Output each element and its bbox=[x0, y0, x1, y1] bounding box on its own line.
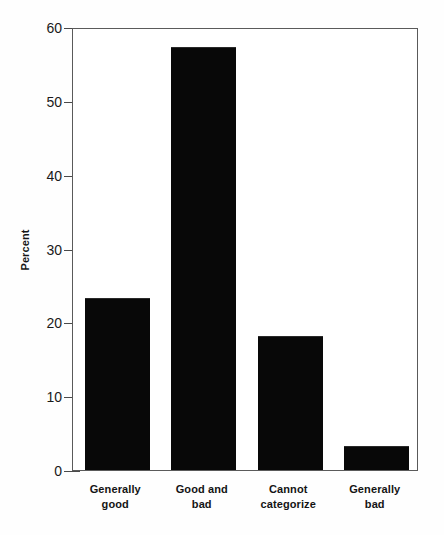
x-category-label-line: Cannot bbox=[238, 482, 338, 497]
y-tick-label: 20 bbox=[12, 315, 72, 331]
x-category-label: Generallygood bbox=[65, 482, 165, 512]
y-tick-label: 30 bbox=[12, 242, 72, 258]
plot-area bbox=[72, 28, 418, 471]
bar bbox=[171, 47, 236, 470]
y-tick-label: 0 bbox=[12, 463, 72, 479]
y-tick-label: 40 bbox=[12, 168, 72, 184]
x-category-label: Cannotcategorize bbox=[238, 482, 338, 512]
y-tick-label: 60 bbox=[12, 20, 72, 36]
y-tick-label: 50 bbox=[12, 94, 72, 110]
x-category-label-line: Generally bbox=[65, 482, 165, 497]
x-category-label-line: bad bbox=[325, 497, 425, 512]
x-category-label: Generallybad bbox=[325, 482, 425, 512]
bar bbox=[258, 336, 323, 470]
y-tick-label: 10 bbox=[12, 389, 72, 405]
x-category-label-line: Good and bbox=[152, 482, 252, 497]
x-category-label-line: bad bbox=[152, 497, 252, 512]
bar bbox=[344, 446, 409, 470]
bar bbox=[85, 298, 150, 470]
bar-chart-figure: Percent 0102030405060 GenerallygoodGood … bbox=[0, 0, 444, 535]
x-category-label-line: Generally bbox=[325, 482, 425, 497]
x-category-label: Good andbad bbox=[152, 482, 252, 512]
x-category-label-line: good bbox=[65, 497, 165, 512]
x-category-label-line: categorize bbox=[238, 497, 338, 512]
